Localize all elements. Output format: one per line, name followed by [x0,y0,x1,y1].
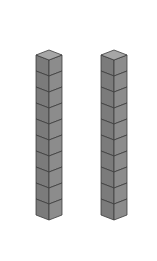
ten-rod-left [36,50,62,220]
figure-canvas: 10 10 [0,0,157,261]
base-ten-rods [0,0,157,261]
ten-rod-right [101,50,127,220]
